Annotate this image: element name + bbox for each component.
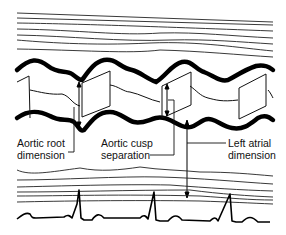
m-mode-diagram <box>0 0 286 235</box>
aortic-root-arrow <box>77 82 81 127</box>
chest-wall-lines <box>17 13 273 57</box>
aortic-cusp-label: Aortic cusp separation <box>101 137 153 161</box>
left-atrial-label: Left atrial dimension <box>228 137 276 161</box>
aortic-cusp-line <box>17 76 273 118</box>
aortic-root-label: Aortic root dimension <box>17 137 65 161</box>
aortic-root-leader <box>68 107 74 152</box>
posterior-wall-lines <box>17 167 273 204</box>
anterior-aortic-wall <box>17 60 273 82</box>
posterior-aortic-wall <box>17 112 273 131</box>
